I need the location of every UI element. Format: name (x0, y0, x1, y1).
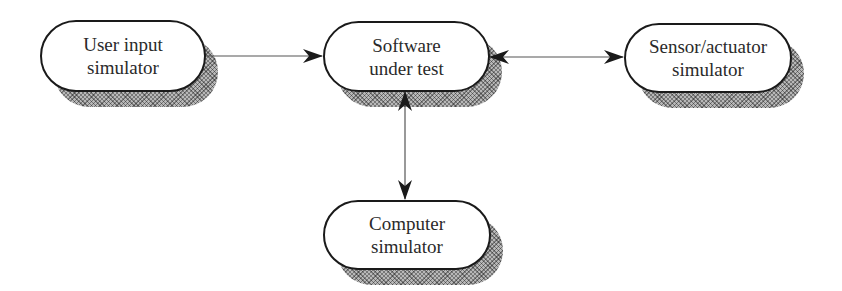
node-label-line: under test (369, 57, 443, 80)
node-computer-simulator: Computer simulator (323, 200, 491, 270)
node-label-line: Sensor/actuator (649, 35, 767, 58)
node-user-input-simulator: User input simulator (40, 20, 206, 92)
node-label-line: simulator (649, 58, 767, 81)
node-label-line: simulator (83, 56, 163, 79)
node-label-line: User input (83, 33, 163, 56)
diagram-canvas: User input simulator Software under test… (0, 0, 842, 291)
node-label-line: Computer (369, 212, 445, 235)
node-label-line: simulator (369, 235, 445, 258)
node-software-under-test: Software under test (323, 21, 490, 92)
node-sensor-actuator-simulator: Sensor/actuator simulator (624, 23, 792, 93)
node-label-line: Software (369, 34, 443, 57)
